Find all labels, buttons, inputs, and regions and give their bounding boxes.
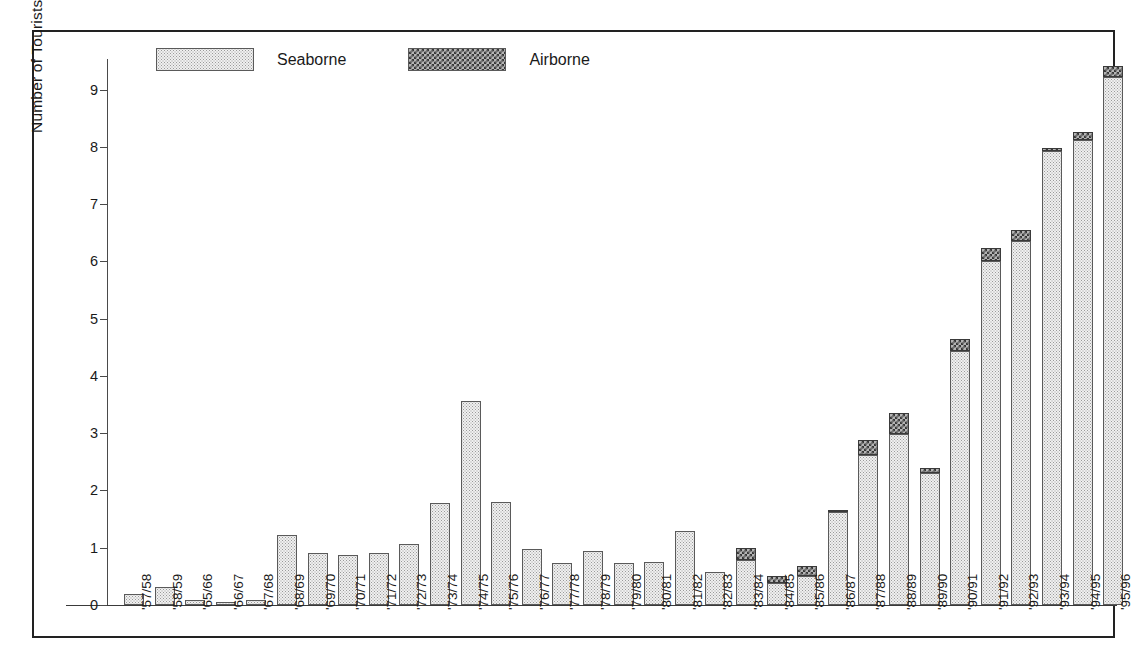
x-tick-label: '86/87 — [843, 574, 858, 610]
y-tick-label: 2 — [76, 490, 98, 491]
x-axis-line — [66, 605, 1117, 606]
x-tick-label: '95/96 — [1118, 574, 1133, 610]
bar-segment-airborne — [920, 468, 940, 473]
bar-segment-seaborne — [1042, 151, 1062, 605]
bar-segment-seaborne — [1011, 241, 1031, 605]
y-tick-mark — [100, 204, 107, 205]
x-tick-label: '94/95 — [1088, 574, 1103, 610]
bar-segment-airborne — [1042, 148, 1062, 151]
bar-segment-seaborne — [1103, 77, 1123, 605]
y-tick-mark — [100, 261, 107, 262]
y-tick-label: 3 — [76, 433, 98, 434]
y-axis-title: Number of Tourists (thousands) — [28, 0, 46, 192]
x-tick-label: '74/75 — [476, 574, 491, 610]
x-tick-label: '85/86 — [812, 574, 827, 610]
bar-segment-airborne — [1073, 132, 1093, 139]
bar-segment-airborne — [981, 248, 1001, 261]
chart-frame: Number of Tourists (thousands) Seaborne … — [32, 30, 1115, 638]
bar-segment-airborne — [1011, 230, 1031, 241]
x-axis-labels: '57/58'58/59'65/66'66/67'67/68'68/69'69/… — [107, 610, 1117, 652]
x-tick-label: '72/73 — [414, 574, 429, 610]
bar-segment-airborne — [736, 548, 756, 561]
y-tick-mark — [100, 490, 107, 491]
x-tick-label: '79/80 — [629, 574, 644, 610]
x-tick-label: '83/84 — [751, 574, 766, 610]
y-tick-mark — [100, 605, 107, 606]
y-tick-mark — [100, 90, 107, 91]
bar-segment-seaborne — [1073, 140, 1093, 605]
bar-segment-seaborne — [981, 261, 1001, 605]
bar-segment-airborne — [889, 413, 909, 434]
y-tick-label: 4 — [76, 376, 98, 377]
bar-segment-seaborne — [950, 351, 970, 605]
x-tick-label: '67/68 — [261, 574, 276, 610]
x-tick-label: '73/74 — [445, 574, 460, 610]
x-tick-label: '66/67 — [231, 574, 246, 610]
x-tick-label: '84/85 — [782, 574, 797, 610]
y-tick-label: 6 — [76, 261, 98, 262]
x-tick-label: '91/92 — [996, 574, 1011, 610]
y-tick-label: 8 — [76, 147, 98, 148]
bar-group — [1011, 230, 1031, 605]
y-tick-mark — [100, 433, 107, 434]
x-tick-label: '87/88 — [873, 574, 888, 610]
x-tick-label: '71/72 — [384, 574, 399, 610]
x-tick-label: '88/89 — [904, 574, 919, 610]
bar-segment-airborne — [828, 510, 848, 512]
y-tick-label: 0 — [76, 605, 98, 606]
y-tick-mark — [100, 376, 107, 377]
y-tick-mark — [100, 319, 107, 320]
x-tick-label: '90/91 — [965, 574, 980, 610]
x-tick-label: '68/69 — [292, 574, 307, 610]
bar-series-container — [107, 59, 1117, 605]
x-tick-label: '76/77 — [537, 574, 552, 610]
bar-group — [1103, 66, 1123, 605]
y-tick-label: 9 — [76, 90, 98, 91]
x-tick-label: '93/94 — [1057, 574, 1072, 610]
x-tick-label: '69/70 — [323, 574, 338, 610]
bar-group — [1073, 132, 1093, 605]
bar-segment-airborne — [950, 339, 970, 351]
y-tick-label: 5 — [76, 319, 98, 320]
x-tick-label: '81/82 — [690, 574, 705, 610]
plot-area: 0123456789 — [107, 59, 1117, 605]
bar-group — [981, 248, 1001, 605]
x-tick-label: '78/79 — [598, 574, 613, 610]
x-tick-label: '92/93 — [1026, 574, 1041, 610]
x-tick-label: '58/59 — [170, 574, 185, 610]
y-tick-mark — [100, 548, 107, 549]
bar-segment-airborne — [858, 440, 878, 455]
y-tick-label: 1 — [76, 548, 98, 549]
x-tick-label: '82/83 — [720, 574, 735, 610]
y-tick-label: 7 — [76, 204, 98, 205]
bar-group — [1042, 148, 1062, 605]
x-tick-label: '89/90 — [935, 574, 950, 610]
x-tick-label: '65/66 — [200, 574, 215, 610]
x-tick-label: '80/81 — [659, 574, 674, 610]
x-tick-label: '57/58 — [139, 574, 154, 610]
x-tick-label: '77/78 — [567, 574, 582, 610]
y-tick-mark — [100, 147, 107, 148]
x-tick-label: '70/71 — [353, 574, 368, 610]
bar-group — [950, 339, 970, 605]
bar-segment-airborne — [1103, 66, 1123, 77]
x-tick-label: '75/76 — [506, 574, 521, 610]
